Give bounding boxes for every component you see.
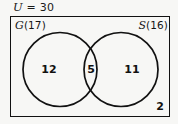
universal-set-value: 30 — [40, 1, 54, 14]
region-count-intersection: 5 — [87, 64, 95, 76]
set-symbol-g: G — [15, 19, 24, 32]
universal-set-equals: = — [23, 1, 40, 14]
set-label-s: S(16) — [138, 19, 168, 32]
region-count-outside: 2 — [156, 101, 164, 113]
region-count-g-only: 12 — [41, 64, 56, 76]
universal-set-label: U = 30 — [13, 0, 54, 15]
set-count-s: (16) — [146, 19, 168, 31]
universal-set-symbol: U — [13, 0, 23, 14]
set-count-g: (17) — [24, 19, 46, 31]
region-count-s-only: 11 — [124, 64, 139, 76]
set-label-g: G(17) — [15, 19, 46, 32]
venn-diagram: U = 30 G(17) S(16) 12 5 11 2 — [0, 0, 178, 124]
set-symbol-s: S — [138, 19, 146, 32]
